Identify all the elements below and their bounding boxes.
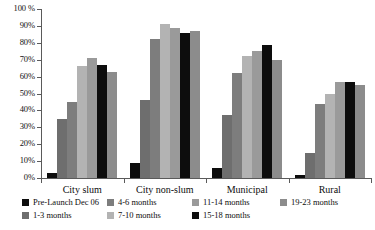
bar bbox=[212, 168, 222, 178]
y-axis-tick-label: 100 % bbox=[0, 4, 35, 13]
bar-chart: 0%10%20%30%40%50%60%70%80%90%100 % City … bbox=[0, 0, 375, 230]
legend-item[interactable]: 1-3 months bbox=[22, 211, 72, 220]
legend-swatch-icon bbox=[192, 212, 199, 219]
legend-swatch-icon bbox=[280, 199, 287, 206]
x-axis-category-label: City slum bbox=[41, 184, 124, 196]
y-axis-tick-label-text: 50% bbox=[20, 89, 35, 98]
legend-label: Pre-Launch Dec 06 bbox=[33, 198, 99, 207]
y-axis-tick-label-text: 30% bbox=[20, 122, 35, 131]
bar bbox=[345, 82, 355, 178]
bar bbox=[222, 115, 232, 178]
bar-group bbox=[47, 9, 117, 178]
legend-item[interactable]: 4-6 months bbox=[107, 198, 157, 207]
y-axis-tick-label-text: 60% bbox=[20, 72, 35, 81]
legend-item[interactable]: Pre-Launch Dec 06 bbox=[22, 198, 99, 207]
y-axis-tick-label-text: 100 % bbox=[14, 4, 35, 13]
y-axis-tick-label: 90% bbox=[0, 21, 35, 30]
bar bbox=[242, 56, 252, 178]
bar bbox=[107, 72, 117, 178]
bar bbox=[272, 60, 282, 178]
y-axis-tick bbox=[37, 77, 42, 78]
x-axis-tick bbox=[206, 178, 207, 183]
y-axis-tick bbox=[37, 26, 42, 27]
bar bbox=[190, 31, 200, 178]
legend-label: 7-10 months bbox=[118, 211, 161, 220]
legend-label: 11-14 months bbox=[203, 198, 250, 207]
legend-label: 19-23 months bbox=[291, 198, 338, 207]
y-axis-tick-label: 60% bbox=[0, 72, 35, 81]
y-axis-tick bbox=[37, 110, 42, 111]
y-axis-tick-label: 40% bbox=[0, 105, 35, 114]
legend-swatch-icon bbox=[192, 199, 199, 206]
bar bbox=[160, 24, 170, 178]
y-axis-tick bbox=[37, 127, 42, 128]
y-axis-tick-label-text: 20% bbox=[20, 139, 35, 148]
legend-label: 15-18 months bbox=[203, 211, 250, 220]
bar bbox=[47, 173, 57, 178]
y-axis-tick bbox=[37, 161, 42, 162]
y-axis-tick-label: 80% bbox=[0, 38, 35, 47]
y-axis-tick-label-text: 70% bbox=[20, 55, 35, 64]
bar bbox=[295, 175, 305, 178]
bar bbox=[262, 45, 272, 179]
y-axis-tick-label: 0% bbox=[0, 173, 35, 182]
y-axis-tick-label-text: 90% bbox=[20, 21, 35, 30]
legend-swatch-icon bbox=[22, 199, 29, 206]
bar bbox=[57, 119, 67, 178]
y-axis-tick bbox=[37, 144, 42, 145]
legend-swatch-icon bbox=[22, 212, 29, 219]
bar bbox=[67, 102, 77, 178]
bar bbox=[325, 94, 335, 179]
bar bbox=[97, 65, 107, 178]
bar bbox=[252, 51, 262, 178]
legend-item[interactable]: 19-23 months bbox=[280, 198, 338, 207]
bar-group bbox=[295, 9, 365, 178]
y-axis-tick bbox=[37, 9, 42, 10]
x-axis-category-label: Municipal bbox=[206, 184, 289, 196]
x-axis-tick bbox=[41, 178, 42, 183]
bar bbox=[305, 153, 315, 178]
chart-legend: Pre-Launch Dec 061-3 months4-6 months7-1… bbox=[0, 198, 375, 230]
bar bbox=[232, 73, 242, 178]
y-axis-tick-label: 10% bbox=[0, 156, 35, 165]
bar-group bbox=[212, 9, 282, 178]
y-axis-tick-label: 30% bbox=[0, 122, 35, 131]
y-axis-tick bbox=[37, 43, 42, 44]
y-axis-tick bbox=[37, 94, 42, 95]
bar bbox=[355, 85, 365, 178]
y-axis-tick-label-text: 40% bbox=[20, 105, 35, 114]
x-axis-tick bbox=[124, 178, 125, 183]
legend-item[interactable]: 15-18 months bbox=[192, 211, 250, 220]
x-axis-category-label: Rural bbox=[289, 184, 372, 196]
legend-item[interactable]: 7-10 months bbox=[107, 211, 161, 220]
legend-swatch-icon bbox=[107, 212, 114, 219]
y-axis-tick-label-text: 0% bbox=[24, 173, 35, 182]
bar bbox=[180, 33, 190, 178]
legend-label: 4-6 months bbox=[118, 198, 157, 207]
y-axis-tick-label: 50% bbox=[0, 89, 35, 98]
legend-item[interactable]: 11-14 months bbox=[192, 198, 250, 207]
bar bbox=[170, 28, 180, 178]
legend-swatch-icon bbox=[107, 199, 114, 206]
y-axis-tick-label-text: 80% bbox=[20, 38, 35, 47]
plot-area: 0%10%20%30%40%50%60%70%80%90%100 % City … bbox=[0, 0, 375, 186]
bar bbox=[77, 66, 87, 178]
x-axis-tick bbox=[371, 178, 372, 183]
y-axis-tick bbox=[37, 60, 42, 61]
x-axis-tick bbox=[289, 178, 290, 183]
y-axis-tick-label-text: 10% bbox=[20, 156, 35, 165]
bar bbox=[130, 163, 140, 178]
bar bbox=[140, 100, 150, 178]
bar bbox=[87, 58, 97, 178]
legend-label: 1-3 months bbox=[33, 211, 72, 220]
y-axis-tick-label: 20% bbox=[0, 139, 35, 148]
bar-group bbox=[130, 9, 200, 178]
bar bbox=[315, 104, 325, 178]
bar bbox=[335, 82, 345, 178]
bar bbox=[150, 39, 160, 178]
x-axis-category-label: City non-slum bbox=[124, 184, 207, 196]
y-axis-tick-label: 70% bbox=[0, 55, 35, 64]
